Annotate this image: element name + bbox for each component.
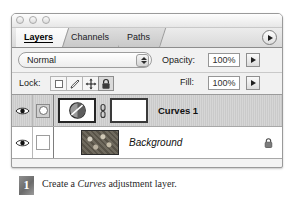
table-row[interactable]: Background: [12, 127, 282, 159]
tab-paths[interactable]: Paths: [119, 28, 160, 47]
fill-label: Fill:: [180, 77, 194, 87]
fill-input[interactable]: 100%: [208, 76, 240, 90]
screenshot-root: Layers Channels Paths Normal Opacity:: [0, 0, 295, 222]
link-ring-icon: [39, 106, 48, 115]
lock-label: Lock:: [19, 78, 41, 88]
caption-text-before: Create a: [42, 178, 78, 189]
transparency-square-icon: [55, 80, 63, 88]
link-empty-box-icon: [36, 135, 50, 150]
panel-menu-button[interactable]: [262, 30, 277, 45]
curves-adjustment-thumbnail[interactable]: [58, 98, 96, 123]
chevron-right-icon: [251, 57, 256, 63]
layers-palette-window: Layers Channels Paths Normal Opacity:: [11, 13, 283, 168]
tab-paths-label: Paths: [127, 32, 150, 42]
blend-mode-select[interactable]: Normal: [18, 52, 152, 68]
brush-icon: [69, 78, 81, 90]
fill-slider-button[interactable]: [246, 76, 260, 90]
layer-visibility-toggle[interactable]: [12, 95, 33, 126]
tab-list: Layers Channels Paths: [16, 28, 160, 47]
table-row[interactable]: Curves 1: [12, 95, 282, 127]
lock-all-button[interactable]: [98, 76, 114, 91]
lock-image-pixels-button[interactable]: [66, 76, 82, 91]
blend-mode-stepper-icon[interactable]: [136, 54, 149, 67]
opacity-input[interactable]: 100%: [208, 53, 240, 67]
figure-caption: 1 Create a Curves adjustment layer.: [19, 176, 177, 195]
zoom-button[interactable]: [42, 16, 50, 24]
eye-icon: [15, 106, 30, 116]
layer-visibility-toggle[interactable]: [12, 127, 33, 158]
tab-channels-label: Channels: [71, 32, 109, 42]
tab-active-underline: [24, 42, 53, 43]
close-button[interactable]: [16, 16, 24, 24]
layer-name[interactable]: Curves 1: [158, 105, 198, 116]
caption-text-emphasis: Curves: [78, 178, 106, 189]
padlock-icon: [263, 137, 274, 149]
padlock-icon: [100, 78, 112, 90]
caption-text: Create a Curves adjustment layer.: [42, 176, 177, 191]
layer-link-toggle[interactable]: [33, 95, 54, 126]
blend-options-row: Normal Opacity: 100%: [12, 48, 282, 73]
minimize-button[interactable]: [29, 16, 37, 24]
lock-row: Lock:: [12, 73, 282, 95]
opacity-slider-button[interactable]: [246, 53, 260, 67]
tab-layers-label: Layers: [24, 32, 53, 42]
lock-transparent-pixels-button[interactable]: [50, 76, 66, 91]
palette-tabstrip: Layers Channels Paths: [12, 28, 282, 48]
lock-button-group: [50, 76, 114, 91]
layer-mask-thumbnail[interactable]: [110, 98, 148, 123]
layer-link-toggle[interactable]: [33, 127, 54, 158]
caption-text-after: adjustment layer.: [106, 178, 177, 189]
chain-link-icon: [99, 103, 107, 119]
panel-menu-triangle-icon: [268, 35, 273, 41]
mask-link-icon: [36, 104, 50, 118]
move-arrows-icon: [85, 78, 97, 90]
tab-layers[interactable]: Layers: [16, 28, 63, 47]
callout-number-badge: 1: [19, 176, 34, 195]
chevron-right-icon: [251, 80, 256, 86]
layer-mask-chain[interactable]: [98, 103, 108, 119]
background-layer-thumbnail[interactable]: [81, 130, 119, 155]
layer-name[interactable]: Background: [129, 137, 182, 148]
lock-position-button[interactable]: [82, 76, 98, 91]
blend-mode-value: Normal: [27, 55, 56, 65]
curves-adjustment-icon: [68, 101, 87, 120]
tab-channels[interactable]: Channels: [63, 28, 119, 47]
opacity-label: Opacity:: [162, 55, 195, 65]
layer-list: Curves 1 Background: [12, 95, 282, 159]
layer-lock-indicator: [263, 127, 274, 158]
eye-icon: [15, 138, 30, 148]
palette-titlebar[interactable]: [12, 14, 282, 28]
window-controls: [16, 16, 50, 24]
